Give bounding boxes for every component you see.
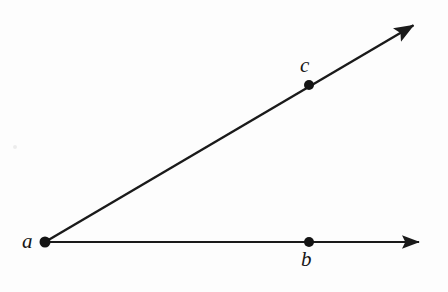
- point-label-c: c: [300, 55, 309, 76]
- point-c-dot: [304, 80, 314, 90]
- geometry-figure: a b c: [0, 0, 448, 292]
- diagram-canvas: [0, 0, 448, 292]
- point-a-dot: [40, 237, 51, 248]
- scan-artifact-speck: [13, 145, 17, 149]
- point-label-b: b: [301, 249, 312, 270]
- point-label-a: a: [22, 231, 33, 252]
- ray-ac-group: [45, 25, 414, 242]
- point-b-dot: [304, 237, 314, 247]
- ray-ac: [45, 25, 414, 242]
